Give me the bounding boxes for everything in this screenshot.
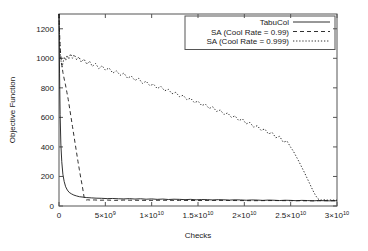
x-axis-label: Checks [185,231,212,240]
svg-text:0: 0 [50,202,55,211]
legend-label-2: SA (Cool Rate = 0.999) [207,37,290,46]
svg-text:400: 400 [41,143,55,152]
svg-text:800: 800 [41,84,55,93]
y-axis-label: Objective Function [8,77,17,143]
svg-text:2×1010: 2×1010 [232,210,256,220]
svg-text:0: 0 [57,211,62,220]
objective-function-chart: 05×1091×10101.5×10102×10102.5×10103×1010… [0,0,368,251]
plot-frame [59,14,337,206]
svg-text:2.5×1010: 2.5×1010 [275,210,306,220]
chart-container: 05×1091×10101.5×10102×10102.5×10103×1010… [0,0,368,251]
legend-label-0: TabuCol [260,18,290,27]
svg-text:1200: 1200 [36,25,54,34]
data-series-group [59,14,337,201]
x-axis-ticks: 05×1091×10101.5×10102×10102.5×10103×1010 [57,14,349,220]
svg-text:1000: 1000 [36,54,54,63]
chart-legend: TabuColSA (Cool Rate = 0.99)SA (Cool Rat… [185,16,335,50]
series-line-2 [59,14,337,200]
svg-text:3×1010: 3×1010 [325,210,349,220]
svg-text:1.5×1010: 1.5×1010 [183,210,214,220]
svg-text:5×109: 5×109 [95,210,116,220]
svg-text:600: 600 [41,113,55,122]
series-line-0 [59,14,337,201]
legend-label-1: SA (Cool Rate = 0.99) [211,28,289,37]
series-line-1 [59,14,337,201]
svg-text:1×1010: 1×1010 [140,210,164,220]
svg-text:200: 200 [41,172,55,181]
